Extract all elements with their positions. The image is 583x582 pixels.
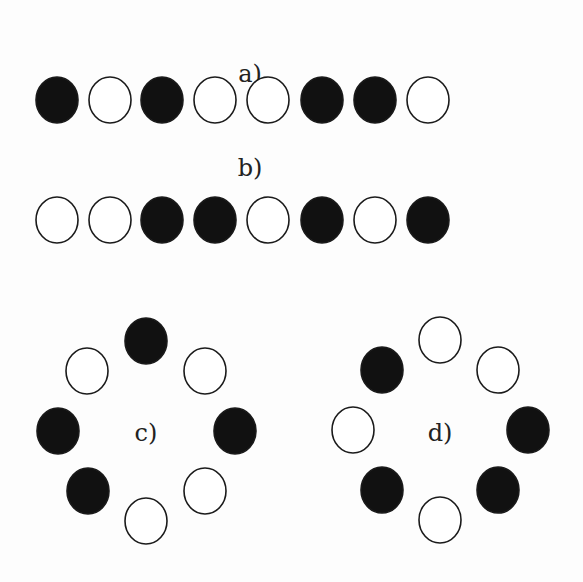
- open-bead: [354, 197, 396, 243]
- necklace-diagram: a) b) c) d): [0, 0, 583, 582]
- open-bead: [407, 77, 449, 123]
- filled-bead: [361, 347, 403, 393]
- open-bead: [125, 498, 167, 544]
- panel-b: b): [36, 154, 449, 243]
- filled-bead: [194, 197, 236, 243]
- filled-bead: [354, 77, 396, 123]
- panel-c: c): [37, 318, 256, 544]
- open-bead: [247, 77, 289, 123]
- open-bead: [36, 197, 78, 243]
- open-bead: [184, 348, 226, 394]
- filled-bead: [301, 197, 343, 243]
- open-bead: [247, 197, 289, 243]
- open-bead: [419, 317, 461, 363]
- open-bead: [89, 197, 131, 243]
- panel-label-d: d): [428, 419, 453, 447]
- filled-bead: [36, 77, 78, 123]
- filled-bead: [141, 197, 183, 243]
- open-bead: [332, 407, 374, 453]
- filled-bead: [361, 467, 403, 513]
- open-bead: [184, 468, 226, 514]
- open-bead: [194, 77, 236, 123]
- filled-bead: [477, 467, 519, 513]
- panel-label-b: b): [238, 154, 263, 182]
- filled-bead: [301, 77, 343, 123]
- filled-bead: [67, 468, 109, 514]
- bead-row-b: [36, 197, 449, 243]
- filled-bead: [214, 408, 256, 454]
- open-bead: [89, 77, 131, 123]
- filled-bead: [125, 318, 167, 364]
- open-bead: [477, 347, 519, 393]
- panel-a: a): [36, 60, 449, 123]
- open-bead: [419, 497, 461, 543]
- filled-bead: [37, 408, 79, 454]
- filled-bead: [407, 197, 449, 243]
- panel-d: d): [332, 317, 549, 543]
- filled-bead: [507, 407, 549, 453]
- open-bead: [66, 348, 108, 394]
- panel-label-c: c): [135, 419, 158, 447]
- filled-bead: [141, 77, 183, 123]
